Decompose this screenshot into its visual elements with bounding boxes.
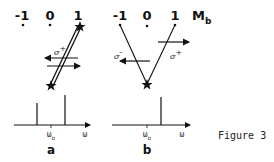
omega0-label-a: ωo	[47, 130, 55, 141]
sigma-plus-label-b: σ+	[170, 48, 182, 61]
level-dot	[49, 24, 52, 27]
level-dot	[22, 24, 25, 27]
panel-label-a: a	[47, 143, 55, 157]
sigma-plus-label-a: σ+	[54, 44, 66, 57]
star-icon	[142, 79, 153, 90]
sigma-minus-label-b: σ-	[114, 48, 122, 61]
panel-label-b: b	[143, 143, 152, 157]
figure-caption: Figure 3	[218, 130, 266, 141]
omega0-label-b: ωo	[143, 130, 151, 141]
omega-label-b: ω	[180, 130, 185, 139]
omega-label-a: ω	[83, 130, 88, 139]
